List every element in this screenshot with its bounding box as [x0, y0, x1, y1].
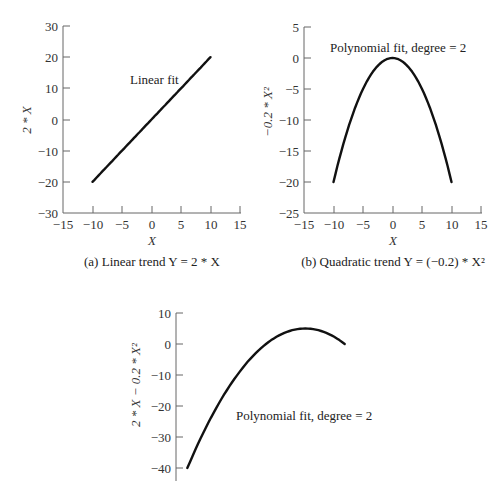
panel-a-y-ticks: [63, 26, 70, 182]
panel-a-annotation: Linear fit: [130, 72, 179, 87]
tick-label: 5: [419, 217, 426, 232]
panel-a-caption: (a) Linear trend Y = 2 * X: [84, 254, 221, 269]
tick-label: −10: [279, 113, 299, 128]
tick-label: −20: [279, 175, 299, 190]
panel-a-y-axis-label: 2 * X: [19, 105, 34, 134]
tick-label: −20: [151, 399, 171, 414]
tick-label: 10: [158, 306, 171, 321]
tick-label: −5: [115, 217, 129, 232]
panel-b-annotation: Polynomial fit, degree = 2: [330, 40, 466, 55]
tick-label: −5: [356, 217, 370, 232]
tick-label: 30: [45, 19, 58, 34]
panel-c-polynomial-fit-curve: [187, 329, 344, 469]
tick-label: −10: [83, 217, 103, 232]
panel-b-x-axis-label: X: [388, 233, 398, 248]
tick-label: −5: [285, 82, 299, 97]
tick-label: −40: [151, 461, 171, 476]
tick-label: 10: [446, 217, 459, 232]
tick-label: −20: [38, 175, 58, 190]
tick-label: −10: [38, 144, 58, 159]
panel-b-y-ticks: [304, 27, 311, 182]
tick-label: −15: [294, 217, 314, 232]
tick-label: 10: [45, 81, 58, 96]
tick-label: 15: [475, 217, 488, 232]
panel-b-x-ticks: [334, 206, 481, 213]
panel-b-y-tick-labels: 5 0 −5 −10 −15 −20 −25: [279, 20, 299, 221]
panel-b-quadratic-trend: 5 0 −5 −10 −15 −20 −25 −15 −10 −5 0 5 10…: [260, 20, 488, 269]
panel-c-annotation: Polynomial fit, degree = 2: [236, 408, 372, 423]
tick-label: −15: [279, 144, 299, 159]
tick-label: 20: [45, 50, 58, 65]
tick-label: −15: [53, 217, 73, 232]
panel-a-y-tick-labels: 30 20 10 0 −10 −20 −30: [38, 19, 58, 221]
tick-label: 5: [178, 217, 185, 232]
panel-b-polynomial-fit-curve: [334, 58, 452, 182]
tick-label: 10: [205, 217, 218, 232]
tick-label: 0: [165, 337, 172, 352]
panel-c-combined-trend: 10 0 −10 −20 −30 −40 2 * X − 0.2 * X² Po…: [128, 306, 372, 481]
panel-c-y-tick-labels: 10 0 −10 −20 −30 −40: [151, 306, 171, 476]
tick-label: −10: [324, 217, 344, 232]
figure: 30 20 10 0 −10 −20 −30 −15 −10 −5 0 5 10…: [0, 0, 504, 481]
tick-label: 0: [293, 51, 300, 66]
panel-a-x-ticks: [93, 206, 240, 213]
panel-a-x-tick-labels: −15 −10 −5 0 5 10 15: [53, 217, 247, 232]
panel-c-y-axis-label: 2 * X − 0.2 * X²: [128, 342, 143, 427]
tick-label: 0: [52, 113, 59, 128]
panel-b-caption: (b) Quadratic trend Y = (−0.2) * X²: [301, 254, 485, 269]
panel-b-x-tick-labels: −15 −10 −5 0 5 10 15: [294, 217, 488, 232]
panel-a-x-axis-label: X: [147, 233, 157, 248]
panel-c-y-ticks: [176, 313, 183, 468]
tick-label: 15: [234, 217, 247, 232]
panel-a-linear-trend: 30 20 10 0 −10 −20 −30 −15 −10 −5 0 5 10…: [19, 19, 247, 269]
tick-label: 0: [390, 217, 397, 232]
tick-label: −30: [151, 430, 171, 445]
panel-b-y-axis-label: −0.2 * X²: [260, 86, 275, 137]
tick-label: −10: [151, 368, 171, 383]
tick-label: 0: [149, 217, 156, 232]
tick-label: 5: [293, 20, 300, 35]
